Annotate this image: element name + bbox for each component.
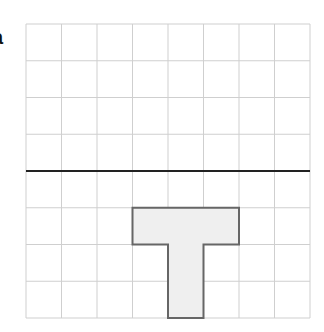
- t-shape: [133, 208, 240, 318]
- grid-figure: [0, 0, 324, 332]
